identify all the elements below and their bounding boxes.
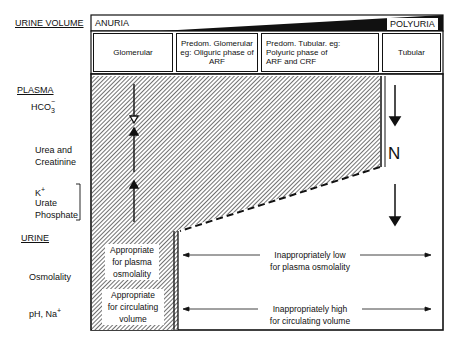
urate-label: Urate [35, 198, 57, 209]
glomerular-volume-note: Appropriate for circulating volume [102, 289, 164, 325]
column-predom-glomerular: Predom. Glomerular eg: Oliguric phase of… [176, 33, 258, 72]
normal-n-label: N [388, 145, 400, 163]
col2-line1: Predom. Glomerular [181, 39, 253, 48]
col3-line3: ARF and CRF [266, 57, 316, 66]
ph-na-label: pH, Na+ [29, 305, 61, 320]
urea-label-line1: Urea and [35, 145, 72, 156]
col3-line2: Polyuric phase of [266, 48, 327, 57]
plasma-heading: PLASMA [17, 85, 54, 96]
tubular-volume-note: Inappropriately high for circulating vol… [258, 303, 362, 327]
glomerular-osmolality-note: Appropriate for plasma osmolality [105, 244, 159, 280]
anuria-label: ANURIA [95, 18, 129, 29]
urine-heading: URINE [21, 233, 49, 244]
osmolality-label: Osmolality [29, 272, 71, 283]
urine-volume-label: URINE VOLUME [15, 18, 84, 29]
col2-line3: ARF [209, 57, 225, 66]
k-label: K+ [35, 184, 45, 199]
phosphate-label: Phosphate [35, 210, 78, 221]
tubular-osmolality-note: Inappropriately low for plasma osmolalit… [260, 249, 360, 273]
col3-line1: Predom. Tubular. eg: [266, 39, 340, 48]
column-glomerular-label: Glomerular [113, 48, 153, 57]
col2-line2: eg: Oliguric phase of [180, 48, 253, 57]
column-tubular: Tubular [382, 33, 441, 72]
urea-label-line2: Creatinine [35, 157, 76, 168]
hco3-label: HCO3− [31, 102, 55, 116]
polyuria-label: POLYURIA [387, 18, 438, 30]
column-tubular-label: Tubular [398, 48, 425, 57]
column-predom-tubular: Predom. Tubular. eg: Polyuric phase of A… [261, 33, 379, 72]
column-glomerular: Glomerular [93, 33, 173, 72]
